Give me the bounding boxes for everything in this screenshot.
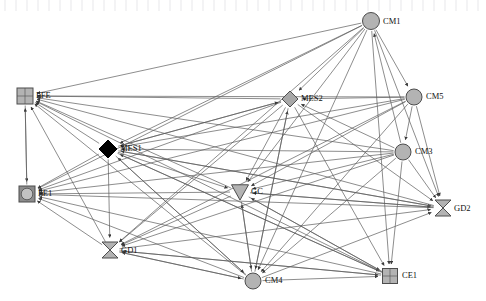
graph-node-label-cm5: CM5 [426, 91, 443, 101]
graph-edge [258, 30, 367, 270]
graph-node-mes2[interactable] [282, 91, 298, 107]
graph-edge [246, 107, 285, 180]
graph-node-gd2[interactable] [435, 200, 451, 216]
graph-edge [121, 99, 404, 147]
graph-node-label-cm1: CM1 [383, 16, 400, 26]
graph-node-cm4[interactable] [245, 273, 261, 289]
graph-edge [36, 102, 382, 272]
graph-edge [25, 109, 27, 185]
graph-node-ce1[interactable] [383, 269, 398, 284]
node-layer [17, 13, 451, 290]
graph-node-label-ffe: FFE [36, 90, 51, 100]
graph-node-ffe[interactable] [17, 88, 33, 104]
graph-edge [262, 212, 431, 277]
network-graph-svg: CM1FFEMES2CM5MES1CM3FE1GCGD2GD1CM4CE1 [0, 0, 486, 301]
graph-node-cm1[interactable] [363, 13, 380, 30]
graph-node-cm3[interactable] [395, 144, 411, 160]
graph-edge [376, 30, 408, 86]
graph-edge [253, 154, 394, 189]
graph-edge [39, 198, 244, 277]
graph-edge [39, 102, 281, 190]
graph-node-mes1[interactable] [99, 140, 117, 158]
graph-edge [120, 105, 283, 242]
graph-edge [122, 149, 394, 152]
graph-node-gc[interactable] [232, 185, 249, 200]
graph-edge [40, 192, 231, 194]
graph-edge [261, 104, 408, 271]
graph-edge [295, 107, 384, 265]
graph-node-label-gd1: GD1 [121, 245, 138, 255]
graph-edge [241, 202, 251, 269]
graph-node-label-ce1: CE1 [402, 270, 417, 280]
graph-edge [36, 103, 100, 144]
graph-edge [405, 106, 412, 139]
graph-node-fe1[interactable] [19, 186, 35, 202]
graph-node-cm5[interactable] [406, 89, 422, 105]
graph-node-label-cm4: CM4 [265, 275, 283, 285]
graph-node-label-mes1: MES1 [120, 143, 142, 153]
graph-node-label-gd2: GD2 [454, 203, 471, 213]
graph-edge [120, 25, 362, 143]
graph-edge [39, 194, 433, 207]
graph-edge [391, 161, 402, 264]
network-diagram-canvas: CM1FFEMES2CM5MES1CM3FE1GCGD2GD1CM4CE1 [0, 0, 486, 301]
graph-edge [301, 104, 394, 148]
graph-node-gd1[interactable] [102, 242, 118, 258]
graph-edge [119, 210, 430, 249]
graph-edge [38, 25, 362, 188]
graph-edge [121, 196, 230, 245]
graph-node-label-fe1: FE1 [38, 188, 52, 198]
graph-edge [248, 29, 365, 182]
graph-edge [37, 98, 393, 151]
edge-layer [25, 23, 440, 281]
graph-edge [37, 23, 361, 93]
graph-edge [37, 201, 102, 245]
graph-edge [39, 99, 405, 191]
graph-edge [119, 28, 363, 242]
graph-edge [253, 193, 434, 207]
graph-edge [39, 197, 381, 274]
graph-node-label-cm3: CM3 [415, 146, 432, 156]
graph-node-label-gc: GC [251, 186, 263, 196]
graph-node-label-mes2: MES2 [301, 93, 323, 103]
